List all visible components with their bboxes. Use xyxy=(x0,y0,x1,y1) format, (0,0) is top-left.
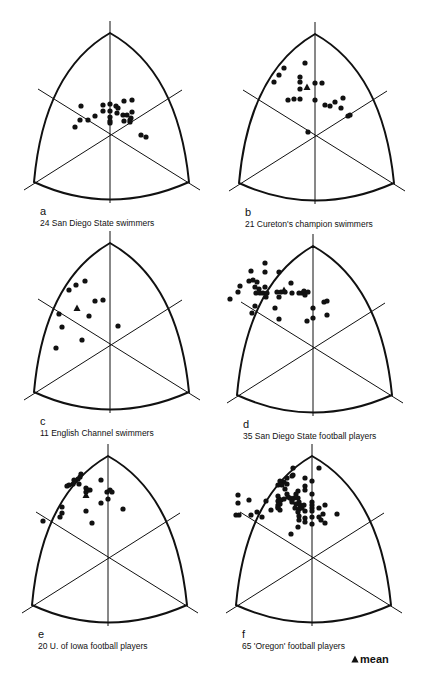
somatochart-plot xyxy=(10,223,210,423)
data-point xyxy=(297,86,302,91)
data-point xyxy=(302,60,307,65)
data-point xyxy=(340,95,345,100)
data-point xyxy=(248,268,253,273)
data-point xyxy=(310,305,315,310)
data-point xyxy=(82,278,87,283)
data-point xyxy=(92,113,97,118)
legend: mean xyxy=(351,653,389,665)
data-point xyxy=(302,519,307,524)
triangle-icon xyxy=(351,655,359,663)
panel-letter: c xyxy=(40,416,46,427)
data-point xyxy=(302,475,307,480)
data-point xyxy=(129,97,134,102)
data-point xyxy=(98,500,103,505)
data-point xyxy=(338,105,343,110)
data-point xyxy=(281,65,286,70)
data-point xyxy=(105,496,110,501)
axis-line xyxy=(241,302,403,403)
data-point xyxy=(86,313,91,318)
data-point xyxy=(284,481,289,486)
data-point xyxy=(312,97,317,102)
somatochart-panel-a: a24 San Diego State swimmers xyxy=(10,13,210,228)
data-point xyxy=(107,120,112,125)
data-point xyxy=(121,118,126,123)
data-point xyxy=(85,117,90,122)
panel-letter: a xyxy=(40,206,46,217)
data-point xyxy=(59,504,64,509)
data-point xyxy=(227,296,232,301)
data-point xyxy=(327,103,332,108)
data-point xyxy=(288,280,293,285)
data-point xyxy=(309,508,314,513)
data-point xyxy=(100,297,105,302)
data-point xyxy=(66,482,71,487)
data-point xyxy=(275,482,280,487)
somatochart-panel-e: e20 U. of Iowa football players xyxy=(8,436,208,651)
data-point xyxy=(322,502,327,507)
data-point xyxy=(296,517,301,522)
data-point xyxy=(129,109,134,114)
data-point xyxy=(301,502,306,507)
data-point xyxy=(72,124,77,129)
data-point xyxy=(316,505,321,510)
data-point xyxy=(288,531,293,536)
mean-triangle-icon xyxy=(74,305,81,312)
panel-caption: 65 'Oregon' football players xyxy=(242,641,345,651)
data-point xyxy=(289,499,294,504)
data-point xyxy=(309,521,314,526)
data-point xyxy=(305,129,310,134)
data-point xyxy=(235,492,240,497)
data-point xyxy=(285,97,290,102)
data-point xyxy=(40,518,45,523)
axis-line xyxy=(36,512,198,613)
data-point xyxy=(276,72,281,77)
axis-line xyxy=(24,300,182,400)
data-point xyxy=(262,260,267,265)
data-point xyxy=(76,481,81,486)
data-point xyxy=(263,498,268,503)
legend-label: mean xyxy=(360,653,389,665)
data-point xyxy=(347,112,352,117)
data-point xyxy=(107,108,112,113)
data-point xyxy=(56,311,61,316)
data-point xyxy=(120,506,125,511)
data-point xyxy=(115,323,120,328)
data-point xyxy=(107,101,112,106)
data-point xyxy=(115,105,120,110)
data-point xyxy=(254,509,259,514)
somatochart-outline xyxy=(32,456,187,623)
data-point xyxy=(59,324,64,329)
data-point xyxy=(268,507,273,512)
panel-caption: 20 U. of Iowa football players xyxy=(38,641,148,651)
data-point xyxy=(302,487,307,492)
data-point xyxy=(83,508,88,513)
axis-line xyxy=(22,513,180,613)
panel-letter: e xyxy=(38,629,44,640)
data-point xyxy=(271,79,276,84)
data-point xyxy=(316,465,321,470)
data-point xyxy=(289,290,294,295)
data-point xyxy=(295,524,300,529)
data-point xyxy=(138,132,143,137)
data-point xyxy=(310,315,315,320)
data-point xyxy=(272,305,277,310)
data-point xyxy=(254,279,259,284)
data-point xyxy=(143,134,148,139)
data-point xyxy=(304,318,309,323)
panel-letter: f xyxy=(242,629,245,640)
data-point xyxy=(73,282,78,287)
data-point xyxy=(66,287,71,292)
somatochart-plot xyxy=(10,13,210,213)
data-point xyxy=(324,298,329,303)
data-point xyxy=(100,102,105,107)
data-point xyxy=(98,477,103,482)
data-point xyxy=(53,345,58,350)
data-point xyxy=(100,108,105,113)
panel-letter: b xyxy=(245,207,251,218)
data-point xyxy=(291,96,296,101)
somatochart-panel-f: f65 'Oregon' football players xyxy=(212,436,412,651)
data-point xyxy=(235,289,240,294)
data-point xyxy=(282,486,287,491)
data-point xyxy=(332,99,337,104)
data-point xyxy=(319,80,324,85)
